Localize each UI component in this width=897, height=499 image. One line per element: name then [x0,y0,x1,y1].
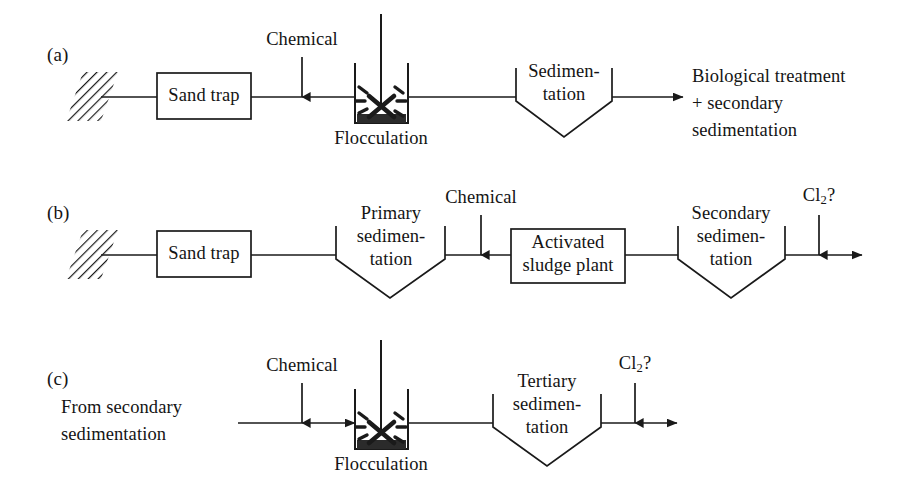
cl2-label-b: Cl2? [803,185,835,208]
chemical-label-a: Chemical [266,29,338,51]
primary-sed-label-line3: tation [370,249,413,271]
primary-sed-label-line1: Primary [361,203,421,225]
sand-trap-label-b: Sand trap [168,243,239,265]
cl2-question-c: ? [643,353,651,373]
outlet-label-a-line1: Biological treatment [692,66,846,88]
row-label-b: (b) [47,202,69,224]
process-flow-figure: (a) Chemical Sand trap Flocculation Sedi… [0,0,897,499]
feed-label-c-line2: sedimentation [61,424,166,446]
outlet-label-a-line2: + secondary [692,93,783,115]
secondary-sed-label-line3: tation [710,249,753,271]
feed-label-c-line1: From secondary [61,397,182,419]
tertiary-sed-label-line3: tation [526,417,569,439]
sand-trap-label-a: Sand trap [168,85,239,107]
sedimentation-label-a-line1: Sedimen- [528,61,600,83]
tertiary-sed-label-line1: Tertiary [517,371,576,393]
flocculation-tank-c [355,340,408,449]
flocculation-tank-a [355,14,408,123]
cl2-symbol-c: Cl [619,353,637,373]
row-label-c: (c) [47,368,68,390]
cl2-label-c: Cl2? [619,353,651,376]
secondary-sed-label-line1: Secondary [692,203,771,225]
cl2-symbol-b: Cl [803,185,821,205]
cl2-question-b: ? [827,185,835,205]
sedimentation-label-a-line2: tation [543,84,586,106]
activated-sludge-label-line2: sludge plant [522,255,613,277]
activated-sludge-label-line1: Activated [532,232,605,254]
primary-sed-label-line2: sedimen- [357,226,426,248]
flocculation-label-c: Flocculation [334,454,428,476]
secondary-sed-label-line2: sedimen- [697,226,766,248]
row-label-a: (a) [47,44,68,66]
chemical-label-c: Chemical [266,355,338,377]
outlet-label-a-line3: sedimentation [692,120,797,142]
tertiary-sed-label-line2: sedimen- [513,394,582,416]
chemical-label-b: Chemical [445,187,517,209]
flocculation-label-a: Flocculation [334,128,428,150]
